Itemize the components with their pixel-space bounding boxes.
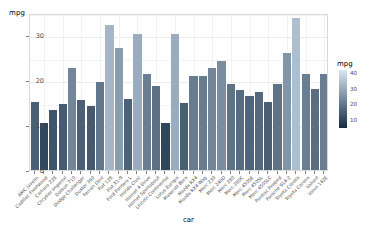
bar	[59, 104, 67, 170]
legend-tick-mark	[347, 120, 349, 121]
legend-tick-mark	[347, 73, 349, 74]
chart-figure: mpg 0102030 AMC JavelinCadillac Fleetwoo…	[0, 0, 377, 237]
x-tick-mark	[193, 171, 194, 174]
x-tick-mark	[323, 171, 324, 174]
legend-tick-mark	[347, 104, 349, 105]
x-tick-mark	[286, 171, 287, 174]
y-tick-mark	[26, 36, 29, 37]
x-axis-title: car	[0, 216, 377, 224]
x-tick-mark	[52, 171, 53, 174]
bar	[217, 61, 225, 170]
bar	[302, 74, 310, 170]
bar	[255, 92, 263, 170]
x-tick-mark	[71, 171, 72, 174]
legend-colorbar	[339, 70, 347, 128]
bar	[124, 99, 132, 170]
x-tick-mark	[155, 171, 156, 174]
bar	[105, 25, 113, 170]
bar	[320, 74, 328, 170]
bar	[31, 102, 39, 170]
x-tick-mark	[202, 171, 203, 174]
bar	[133, 34, 141, 170]
legend-tick-label: 40	[350, 70, 357, 76]
y-tick-mark	[26, 171, 29, 172]
legend-tick-label: 20	[350, 101, 357, 107]
plot-panel	[29, 14, 328, 171]
bar	[199, 76, 207, 170]
x-tick-mark	[267, 171, 268, 174]
bar	[68, 68, 76, 170]
y-tick-mark	[26, 81, 29, 82]
bar	[143, 74, 151, 170]
x-tick-mark	[183, 171, 184, 174]
bar	[227, 84, 235, 170]
bar	[49, 110, 57, 170]
y-tick-mark	[26, 126, 29, 127]
x-tick-mark	[211, 171, 212, 174]
legend-tick-label: 30	[350, 86, 357, 92]
y-tick-label: 10	[36, 123, 44, 130]
y-axis-title: mpg	[9, 9, 25, 17]
x-tick-mark	[164, 171, 165, 174]
legend-tick-mark	[347, 89, 349, 90]
x-tick-mark	[136, 171, 137, 174]
bar	[161, 123, 169, 170]
bar	[77, 100, 85, 170]
x-tick-mark	[146, 171, 147, 174]
x-tick-mark	[108, 171, 109, 174]
x-tick-mark	[43, 171, 44, 174]
x-tick-mark	[305, 171, 306, 174]
bar	[273, 84, 281, 170]
bar	[87, 106, 95, 170]
x-tick-mark	[230, 171, 231, 174]
x-tick-mark	[295, 171, 296, 174]
x-tick-mark	[314, 171, 315, 174]
x-tick-mark	[62, 171, 63, 174]
legend-tick-label: 10	[350, 117, 357, 123]
x-tick-mark	[127, 171, 128, 174]
x-tick-mark	[221, 171, 222, 174]
bar	[96, 82, 104, 170]
x-tick-mark	[258, 171, 259, 174]
bar	[283, 53, 291, 170]
legend-title: mpg	[337, 60, 353, 68]
bar	[189, 76, 197, 170]
x-tick-mark	[99, 171, 100, 174]
bar	[292, 18, 300, 170]
bar	[40, 123, 48, 170]
bar	[245, 96, 253, 170]
bar	[208, 68, 216, 170]
bar	[171, 34, 179, 170]
y-tick-label: 20	[36, 78, 44, 85]
x-tick-mark	[34, 171, 35, 174]
bar	[236, 90, 244, 170]
x-tick-mark	[90, 171, 91, 174]
x-tick-mark	[249, 171, 250, 174]
bar	[115, 48, 123, 170]
x-tick-mark	[239, 171, 240, 174]
bar	[180, 103, 188, 170]
x-tick-mark	[277, 171, 278, 174]
x-tick-mark	[80, 171, 81, 174]
bar	[152, 86, 160, 170]
x-tick-mark	[174, 171, 175, 174]
bar-series	[30, 15, 327, 170]
bar	[264, 102, 272, 170]
x-tick-mark	[118, 171, 119, 174]
bar	[311, 89, 319, 170]
y-tick-label: 30	[36, 33, 44, 40]
